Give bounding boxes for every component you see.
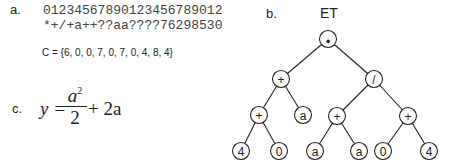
node-symbol: +	[333, 110, 340, 124]
tree-node: +	[400, 108, 417, 125]
node-symbol: +	[255, 109, 262, 123]
node-symbol: 4	[238, 145, 245, 159]
node-symbol: a	[300, 109, 307, 123]
tree-node: a	[307, 143, 324, 160]
expression-tree: •+/+a++40aa04	[0, 0, 452, 168]
tree-node: a	[351, 143, 368, 160]
tree-nodes: •+/+a++40aa04	[233, 31, 438, 160]
tree-node: 0	[375, 143, 392, 160]
tree-edge	[328, 39, 374, 79]
tree-node: 4	[421, 143, 438, 160]
node-symbol: a	[312, 145, 319, 159]
tree-node: •	[320, 31, 337, 50]
node-symbol: +	[277, 73, 284, 87]
tree-edge	[281, 39, 328, 79]
node-symbol: 0	[380, 145, 387, 159]
tree-node: 4	[233, 143, 250, 160]
tree-node: +	[273, 71, 290, 88]
tree-node: +	[329, 108, 346, 125]
tree-node: +	[251, 107, 268, 124]
tree-edges	[241, 39, 429, 151]
node-symbol: 0	[276, 145, 283, 159]
tree-node: /	[366, 71, 383, 88]
tree-node: a	[295, 107, 312, 124]
node-symbol: •	[326, 35, 330, 49]
node-symbol: 4	[426, 145, 433, 159]
node-symbol: +	[404, 110, 411, 124]
node-symbol: a	[356, 145, 363, 159]
tree-node: 0	[271, 143, 288, 160]
